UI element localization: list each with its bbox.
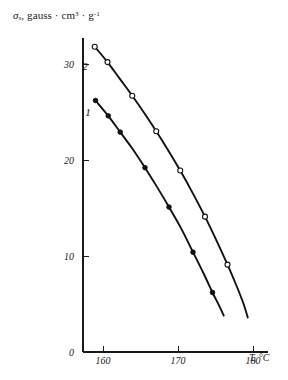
y-axis-exponent-2: -1 <box>94 10 100 18</box>
x-tick-label: 160 <box>96 355 111 366</box>
y-axis-unit-2: · g <box>79 9 94 21</box>
data-point-marker <box>93 98 98 103</box>
data-point-marker <box>143 165 148 170</box>
x-tick-label: 170 <box>171 355 186 366</box>
y-axis-unit-1: , gauss · cm <box>21 9 75 21</box>
chart-axes <box>83 38 268 352</box>
data-point-marker <box>191 250 196 255</box>
data-point-marker <box>130 93 135 98</box>
chart-page: 0102030160170180 12 σs, gauss · cm3 · g-… <box>0 0 288 380</box>
y-tick-label: 0 <box>69 347 74 358</box>
chart-tick-labels: 0102030160170180 <box>63 59 261 367</box>
series-curve-1 <box>96 100 224 315</box>
data-point-marker <box>178 168 183 173</box>
y-tick-label: 10 <box>64 251 74 262</box>
series-label-2: 2 <box>82 60 88 72</box>
data-point-marker <box>225 262 230 267</box>
data-point-marker <box>106 114 111 119</box>
y-tick-label: 30 <box>63 59 74 70</box>
data-point-marker <box>154 129 159 134</box>
chart-data-markers <box>92 44 230 295</box>
magnetization-temperature-chart: 0102030160170180 12 <box>0 0 288 380</box>
x-axis-label: T, °C <box>249 352 270 363</box>
data-point-marker <box>210 290 215 295</box>
data-point-marker <box>167 205 172 210</box>
series-curve-2 <box>95 47 248 318</box>
data-point-marker <box>105 60 110 65</box>
chart-curves <box>95 47 248 318</box>
x-axis-unit: , °C <box>254 352 270 363</box>
data-point-marker <box>203 214 208 219</box>
data-point-marker <box>92 44 97 49</box>
data-point-marker <box>118 130 123 135</box>
series-label-1: 1 <box>85 106 91 118</box>
y-axis-label: σs, gauss · cm3 · g-1 <box>13 9 100 22</box>
y-tick-label: 20 <box>64 155 74 166</box>
